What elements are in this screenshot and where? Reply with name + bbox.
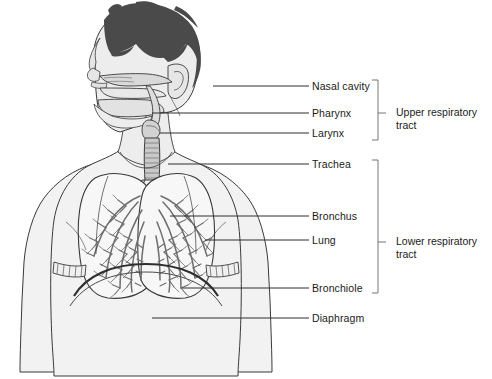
respiratory-system-diagram: Nasal cavityPharynxLarynxTracheaBronchus… bbox=[0, 0, 492, 379]
group-brackets bbox=[372, 80, 386, 293]
label-trachea: Trachea bbox=[312, 158, 351, 171]
lungs bbox=[78, 174, 219, 299]
label-larynx: Larynx bbox=[312, 127, 344, 140]
group-label-line2: tract bbox=[396, 248, 491, 261]
bracket-lower-respiratory-tract bbox=[372, 160, 386, 293]
label-pharynx: Pharynx bbox=[312, 107, 351, 120]
label-lung: Lung bbox=[312, 234, 336, 247]
group-label-line1: Upper respiratory bbox=[396, 106, 491, 119]
label-bronchiole: Bronchiole bbox=[312, 282, 363, 295]
bracket-upper-respiratory-tract bbox=[372, 80, 386, 140]
group-label-line1: Lower respiratory bbox=[396, 235, 491, 248]
larynx-shape bbox=[142, 120, 160, 140]
group-label-upper-respiratory-tract: Upper respiratorytract bbox=[396, 106, 491, 132]
label-bronchus: Bronchus bbox=[312, 210, 357, 223]
label-nasal-cavity: Nasal cavity bbox=[312, 80, 370, 93]
group-label-line2: tract bbox=[396, 119, 491, 132]
anatomy-illustration bbox=[0, 0, 492, 379]
group-label-lower-respiratory-tract: Lower respiratorytract bbox=[396, 235, 491, 261]
head-profile bbox=[87, 1, 200, 140]
label-diaphragm: Diaphragm bbox=[312, 312, 364, 325]
